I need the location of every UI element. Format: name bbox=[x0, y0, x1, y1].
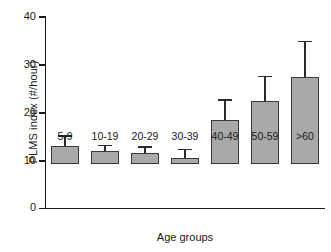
plot-area: 5-9 10-19 20-29 30-39 40-49 bbox=[45, 0, 325, 208]
bar bbox=[171, 158, 199, 164]
error-bar-cap bbox=[258, 76, 272, 78]
bar bbox=[291, 77, 319, 164]
error-bar-line bbox=[304, 42, 305, 77]
error-bar-cap bbox=[218, 99, 232, 101]
x-axis-tick-label: 40-49 bbox=[205, 131, 245, 142]
x-axis-tick-label: 5-9 bbox=[45, 131, 85, 142]
error-bar-line bbox=[224, 101, 225, 120]
bar-group: 5-9 bbox=[45, 0, 85, 164]
x-axis-tick-label: 10-19 bbox=[85, 131, 125, 142]
bar-group: 20-29 bbox=[125, 0, 165, 164]
error-bar-cap bbox=[178, 149, 192, 151]
error-bar-line bbox=[104, 146, 105, 151]
error-bar-cap bbox=[138, 146, 152, 148]
bar-group: >60 bbox=[285, 0, 325, 164]
error-bar-line bbox=[264, 77, 265, 101]
error-bar-cap bbox=[298, 41, 312, 43]
bar bbox=[131, 153, 159, 164]
x-axis-tick-label: 30-39 bbox=[165, 131, 205, 142]
bar-group: 30-39 bbox=[165, 0, 205, 164]
x-axis-tick-label: 50-59 bbox=[245, 131, 285, 142]
bar bbox=[91, 151, 119, 164]
bar-group: 10-19 bbox=[85, 0, 125, 164]
error-bar-line bbox=[144, 148, 145, 153]
bar-chart-figure: PLMS index (#/hour) 40 30 20 10 0 5-9 10… bbox=[0, 0, 331, 252]
y-axis-tick-label: 40 bbox=[0, 11, 36, 22]
error-bar-line bbox=[184, 150, 185, 157]
bar bbox=[51, 146, 79, 164]
y-axis-tick-label: 10 bbox=[0, 155, 36, 166]
y-axis-tick-label: 30 bbox=[0, 59, 36, 70]
x-axis-title: Age groups bbox=[45, 231, 325, 243]
bar-group: 40-49 bbox=[205, 0, 245, 164]
x-axis-tick-label: >60 bbox=[285, 131, 325, 142]
y-axis-tick-label: 20 bbox=[0, 107, 36, 118]
x-axis-tick-label: 20-29 bbox=[125, 131, 165, 142]
error-bar-cap bbox=[98, 145, 112, 147]
y-axis-tick-label: 0 bbox=[0, 202, 36, 213]
bar-group: 50-59 bbox=[245, 0, 285, 164]
